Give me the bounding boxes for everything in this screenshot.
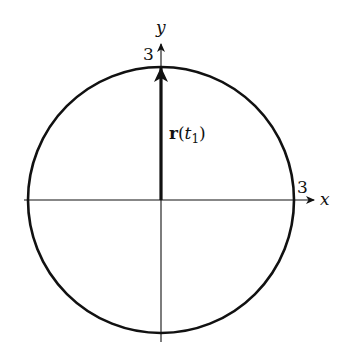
- vector-open-paren: (: [178, 123, 185, 143]
- vector-label: r(t1): [169, 123, 206, 146]
- vector-close-paren: ): [199, 123, 206, 143]
- y-axis-label: y: [155, 17, 166, 37]
- x-tick-label: 3: [297, 177, 308, 197]
- x-axis-label: x: [320, 189, 330, 209]
- circle-diagram: y 3 x 3 r(t1): [0, 0, 351, 357]
- vector-subscript: 1: [191, 132, 199, 146]
- y-tick-label: 3: [143, 44, 154, 64]
